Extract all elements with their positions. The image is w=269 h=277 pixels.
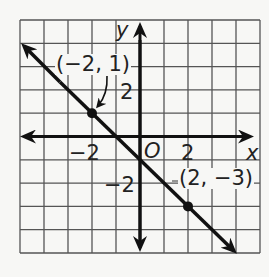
origin-label: O [144, 141, 161, 162]
plotted-line [24, 46, 234, 251]
point-label-2-neg3: (2, −3) [178, 168, 254, 189]
point-2-neg3 [183, 201, 193, 211]
y-tick-label-2: 2 [120, 82, 133, 103]
y-axis-label: y [116, 20, 128, 41]
x-axis-label: x [246, 143, 258, 164]
point-label-neg2-1: (−2, 1) [55, 54, 131, 75]
y-tick-label-neg2: −2 [104, 175, 135, 196]
graph-canvas [0, 0, 269, 277]
x-tick-label-2: 2 [181, 143, 194, 164]
point-neg2-1 [87, 108, 97, 118]
coordinate-graph: (−2, 1) (2, −3) y x O −2 2 2 −2 [0, 0, 269, 277]
x-tick-label-neg2: −2 [69, 143, 100, 164]
pointer-arrow-icon [98, 76, 107, 106]
